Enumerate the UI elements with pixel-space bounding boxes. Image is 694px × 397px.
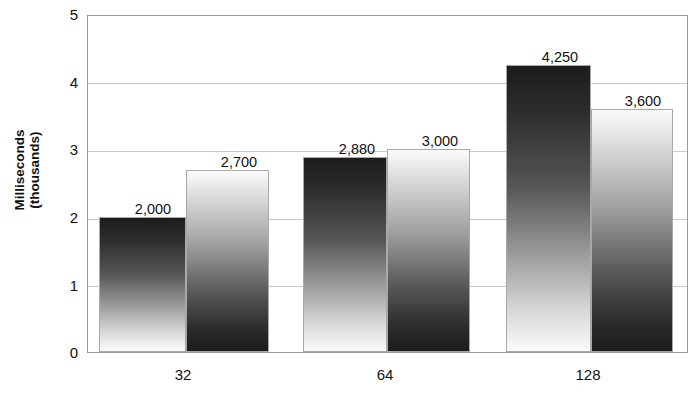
- x-tick-label-128: 128: [548, 367, 628, 382]
- value-label-64-series-1: 2,880: [312, 142, 402, 157]
- y-axis-title-line-1: Milliseconds: [12, 129, 27, 210]
- bar-128-series-2[interactable]: [591, 109, 673, 352]
- value-label-32-series-1: 2,000: [108, 202, 198, 217]
- bar-32-series-2[interactable]: [186, 170, 269, 352]
- y-tick-label-4: 4: [48, 75, 78, 90]
- bar-128-series-1[interactable]: [506, 65, 591, 352]
- bar-64-series-2[interactable]: [387, 149, 470, 352]
- x-tick-label-64: 64: [345, 367, 425, 382]
- y-tick-label-0: 0: [48, 345, 78, 360]
- y-tick-label-5: 5: [48, 7, 78, 22]
- y-axis-title-line-2: (thousands): [27, 131, 42, 208]
- y-axis-title: Milliseconds (thousands): [3, 95, 51, 245]
- bar-chart: Milliseconds (thousands) 5 4 3 2 1 0 2,0…: [0, 0, 694, 397]
- value-label-64-series-2: 3,000: [395, 134, 485, 149]
- value-label-128-series-1: 4,250: [515, 50, 605, 65]
- bar-32-series-1[interactable]: [99, 217, 186, 352]
- y-tick-label-2: 2: [48, 210, 78, 225]
- x-tick-label-32: 32: [143, 367, 223, 382]
- y-tick-label-3: 3: [48, 142, 78, 157]
- plot-area: [87, 15, 688, 353]
- y-tick-label-1: 1: [48, 278, 78, 293]
- bar-64-series-1[interactable]: [303, 157, 387, 352]
- value-label-128-series-2: 3,600: [598, 94, 688, 109]
- gridline-4: [88, 83, 687, 84]
- value-label-32-series-2: 2,700: [194, 155, 284, 170]
